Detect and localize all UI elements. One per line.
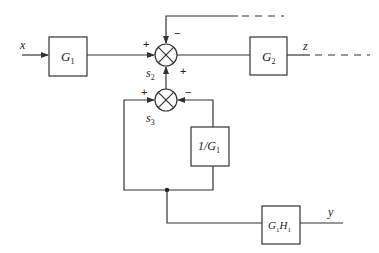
s2-plus-bottom-sign: + (180, 65, 186, 77)
summing-junction-s3 (155, 89, 177, 111)
summing-junction-s2 (155, 44, 177, 66)
s3-minus-right-sign: − (185, 86, 191, 98)
block-inverse-g1: 1/G1 (191, 127, 229, 166)
block-g1h1: G1H1 (262, 206, 300, 244)
block-g1: G1 (49, 37, 87, 76)
block-diagram: x G1 + − + s2 G2 z + − s3 (0, 0, 379, 253)
s2-minus-top-sign: − (174, 27, 180, 39)
s3-plus-left-sign: + (141, 86, 147, 98)
block-g2: G2 (250, 37, 287, 75)
s3-label: s3 (146, 111, 155, 127)
invg1-to-s3-wire (178, 100, 213, 127)
node-to-g1h1-wire (167, 190, 262, 223)
output-y-label: y (327, 205, 334, 219)
output-z-label: z (302, 39, 308, 53)
node-to-invg1-wire (167, 166, 213, 190)
s2-plus-left-sign: + (143, 38, 149, 50)
s2-label: s2 (146, 66, 155, 82)
input-x-label: x (19, 38, 26, 52)
